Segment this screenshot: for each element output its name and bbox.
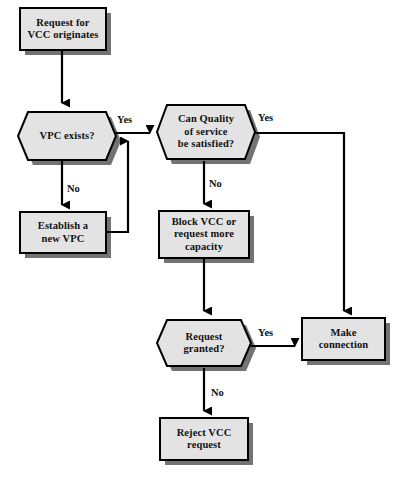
- node-establish-a-new-vpc[interactable]: [20, 212, 106, 253]
- node-block-vcc-or-request-more-capacity[interactable]: [159, 211, 249, 258]
- node-request-for-vcc-originates[interactable]: [20, 8, 106, 50]
- node-can-quality-of-service-be-satisfied[interactable]: [157, 105, 255, 159]
- edge-qos-yes-to-make-connection: [255, 133, 344, 311]
- node-make-connection[interactable]: [302, 318, 385, 360]
- node-request-granted[interactable]: [157, 320, 251, 366]
- node-vpc-exists[interactable]: [18, 112, 116, 160]
- node-reject-vcc-request[interactable]: [160, 418, 248, 460]
- flowchart-diagram: Request for VCC originates VPC exists? E…: [0, 0, 404, 483]
